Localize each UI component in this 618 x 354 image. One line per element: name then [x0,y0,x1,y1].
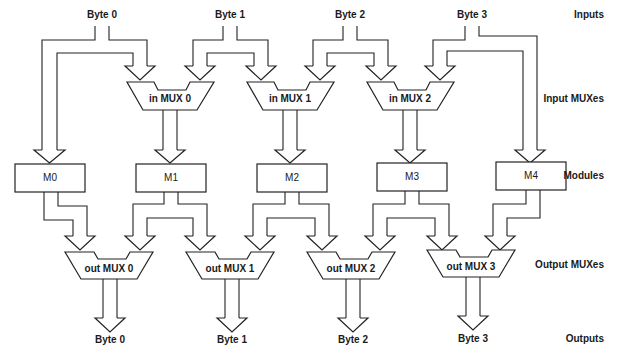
output-byte-1: Byte 1 [217,334,247,345]
module-m4-label: M4 [524,170,538,181]
row-label-output-muxes: Output MUXes [535,259,604,270]
in-mux-2-label: in MUX 2 [389,93,432,104]
bus-outputs [95,277,488,332]
bus-byte2-in [305,26,396,80]
module-m3-label: M3 [405,171,419,182]
row-label-input-muxes: Input MUXes [543,93,604,104]
module-m1-label: M1 [164,172,178,183]
input-byte-1: Byte 1 [215,9,245,20]
row-label-modules: Modules [563,170,604,181]
out-mux-2-label: out MUX 2 [327,263,376,274]
bus-m1-out [125,192,215,250]
out-mux-1-label: out MUX 1 [206,263,255,274]
row-label-outputs: Outputs [566,333,605,344]
output-byte-0: Byte 0 [95,334,125,345]
bus-m4-out [485,190,540,250]
byte-mux-diagram: Byte 0 Byte 1 Byte 2 Byte 3 in MUX 0 in … [0,0,618,354]
bus-m2-out [245,192,337,250]
out-mux-0-label: out MUX 0 [85,263,134,274]
module-m2-label: M2 [285,172,299,183]
bus-m0-out [44,192,95,250]
out-mux-3-label: out MUX 3 [447,261,496,272]
input-byte-0: Byte 0 [87,9,117,20]
output-byte-2: Byte 2 [338,334,368,345]
module-m0-label: M0 [43,172,57,183]
input-byte-3: Byte 3 [457,9,487,20]
row-label-inputs: Inputs [574,9,604,20]
bus-inmux-to-modules [155,110,425,163]
bus-m3-out [365,191,457,250]
bus-byte1-in [185,26,276,80]
in-mux-1-label: in MUX 1 [269,93,312,104]
in-mux-0-label: in MUX 0 [149,93,192,104]
input-byte-2: Byte 2 [335,9,365,20]
output-byte-3: Byte 3 [458,333,488,344]
